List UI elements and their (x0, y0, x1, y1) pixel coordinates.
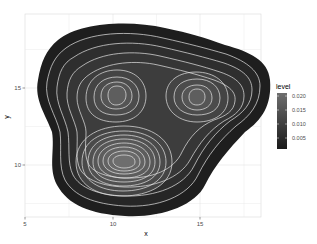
legend-break-label: 0.005 (292, 135, 306, 141)
peak-lower (76, 126, 172, 196)
legend-break-label: 0.020 (292, 93, 306, 99)
y-axis: 15 10 y (3, 85, 25, 168)
x-axis: 5 10 15 x (23, 217, 204, 237)
y-tick-label: 15 (14, 85, 21, 91)
legend-title: level (276, 83, 291, 90)
x-tick-label: 10 (110, 221, 117, 227)
x-tick-label: 5 (23, 221, 27, 227)
legend-break-label: 0.010 (292, 121, 306, 127)
x-tick-label: 15 (197, 221, 204, 227)
peak-upper-right (166, 72, 228, 122)
x-axis-title: x (144, 230, 148, 237)
y-axis-title: y (3, 115, 11, 119)
legend-colorbar (277, 93, 287, 149)
legend: level 0.020 0.015 0.010 0.005 (276, 83, 306, 149)
legend-break-label: 0.015 (292, 107, 306, 113)
density-contour-chart: 5 10 15 x 15 10 y level 0.020 0.015 0.01… (0, 0, 317, 244)
y-tick-label: 10 (14, 162, 21, 168)
